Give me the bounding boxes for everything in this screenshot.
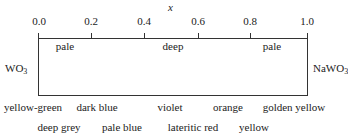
tick-mark [91,33,92,38]
tick-mark [250,33,251,38]
colour-label: pale blue [102,121,142,133]
colour-label: yellow-green [4,101,62,113]
colour-label: orange [213,101,243,113]
colour-label: dark blue [76,101,117,113]
region-label: pale [56,40,74,52]
tick-label: 0.4 [137,15,151,27]
colour-label: golden yellow [263,101,326,113]
tick-mark [198,33,199,38]
axis-label-x: x [168,1,173,13]
left-border [38,33,39,95]
region-label: deep [163,40,184,52]
colour-label: lateritic red [168,121,218,133]
tick-label: 0.8 [243,15,257,27]
bottom-border [38,95,308,96]
colour-label: yellow [239,121,269,133]
tick-label: 0.2 [84,15,98,27]
region-label: pale [263,40,281,52]
tick-label: 0.6 [191,15,205,27]
tick-label: 1.0 [300,15,314,27]
colour-label: deep grey [37,121,80,133]
top-axis-line [38,38,308,39]
tick-mark [144,33,145,38]
tick-label: 0.0 [32,15,46,27]
right-compound: NaWO3 [313,62,348,76]
colour-label: violet [157,101,182,113]
left-compound: WO3 [5,62,27,76]
right-border [307,33,308,95]
